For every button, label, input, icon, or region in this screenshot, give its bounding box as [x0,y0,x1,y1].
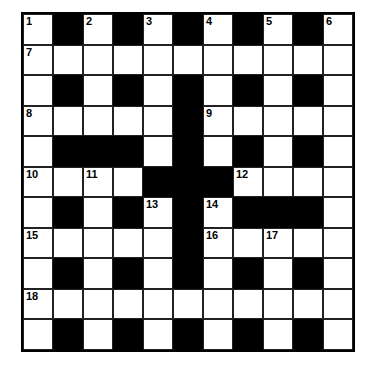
answer-cell[interactable]: 6 [323,14,353,45]
black-square [173,136,203,167]
answer-cell[interactable] [143,258,173,289]
answer-cell[interactable] [143,136,173,167]
answer-cell[interactable] [263,136,293,167]
answer-cell[interactable] [323,167,353,198]
answer-cell[interactable] [23,258,53,289]
answer-cell[interactable] [203,258,233,289]
answer-cell[interactable]: 7 [23,45,53,76]
answer-cell[interactable] [263,167,293,198]
answer-cell[interactable] [53,289,83,320]
answer-cell[interactable] [23,197,53,228]
answer-cell[interactable] [83,258,113,289]
answer-cell[interactable] [83,197,113,228]
answer-cell[interactable]: 13 [143,197,173,228]
answer-cell[interactable] [203,75,233,106]
black-square [173,106,203,137]
answer-cell[interactable] [323,136,353,167]
black-square [293,14,323,45]
answer-cell[interactable]: 5 [263,14,293,45]
answer-cell[interactable] [53,45,83,76]
answer-cell[interactable] [173,45,203,76]
clue-number: 13 [146,199,158,210]
answer-cell[interactable] [263,75,293,106]
answer-cell[interactable] [323,45,353,76]
answer-cell[interactable] [233,45,263,76]
answer-cell[interactable]: 17 [263,228,293,259]
answer-cell[interactable] [323,75,353,106]
answer-cell[interactable] [83,319,113,350]
answer-cell[interactable]: 1 [23,14,53,45]
black-square [173,167,203,198]
answer-cell[interactable] [23,319,53,350]
answer-cell[interactable] [113,289,143,320]
answer-cell[interactable] [143,319,173,350]
answer-cell[interactable] [23,136,53,167]
answer-cell[interactable] [323,197,353,228]
answer-cell[interactable] [323,258,353,289]
answer-cell[interactable] [143,228,173,259]
answer-cell[interactable] [203,136,233,167]
answer-cell[interactable] [53,106,83,137]
black-square [173,228,203,259]
answer-cell[interactable] [83,106,113,137]
answer-cell[interactable] [293,289,323,320]
clue-number: 14 [206,199,218,210]
answer-cell[interactable] [263,289,293,320]
answer-cell[interactable] [293,45,323,76]
clue-number: 10 [26,169,38,180]
answer-cell[interactable] [53,167,83,198]
answer-cell[interactable]: 9 [203,106,233,137]
black-square [233,258,263,289]
answer-cell[interactable] [293,228,323,259]
answer-cell[interactable] [233,289,263,320]
answer-cell[interactable] [293,106,323,137]
answer-cell[interactable]: 16 [203,228,233,259]
answer-cell[interactable]: 10 [23,167,53,198]
answer-cell[interactable] [83,289,113,320]
answer-cell[interactable] [263,319,293,350]
answer-cell[interactable] [263,45,293,76]
answer-cell[interactable] [233,228,263,259]
answer-cell[interactable] [323,228,353,259]
answer-cell[interactable] [83,75,113,106]
answer-cell[interactable]: 11 [83,167,113,198]
answer-cell[interactable] [83,228,113,259]
black-square [113,258,143,289]
answer-cell[interactable]: 12 [233,167,263,198]
answer-cell[interactable]: 15 [23,228,53,259]
answer-cell[interactable] [83,45,113,76]
answer-cell[interactable] [233,106,263,137]
answer-cell[interactable] [323,106,353,137]
answer-cell[interactable] [293,167,323,198]
black-square [53,136,83,167]
answer-cell[interactable] [23,75,53,106]
answer-cell[interactable]: 4 [203,14,233,45]
answer-cell[interactable] [53,228,83,259]
answer-cell[interactable] [143,106,173,137]
answer-cell[interactable]: 18 [23,289,53,320]
answer-cell[interactable] [113,106,143,137]
answer-cell[interactable] [263,258,293,289]
black-square [113,136,143,167]
answer-cell[interactable] [263,106,293,137]
answer-cell[interactable] [143,75,173,106]
clue-number: 12 [236,169,248,180]
answer-cell[interactable]: 3 [143,14,173,45]
answer-cell[interactable] [143,289,173,320]
answer-cell[interactable] [113,45,143,76]
answer-cell[interactable] [323,319,353,350]
answer-cell[interactable] [203,45,233,76]
answer-cell[interactable] [143,45,173,76]
black-square [203,167,233,198]
answer-cell[interactable] [113,228,143,259]
answer-cell[interactable] [323,289,353,320]
answer-cell[interactable]: 8 [23,106,53,137]
answer-cell[interactable] [203,289,233,320]
clue-number: 9 [206,108,212,119]
black-square [293,319,323,350]
answer-cell[interactable]: 2 [83,14,113,45]
answer-cell[interactable]: 14 [203,197,233,228]
answer-cell[interactable] [113,167,143,198]
answer-cell[interactable] [203,319,233,350]
answer-cell[interactable] [173,289,203,320]
